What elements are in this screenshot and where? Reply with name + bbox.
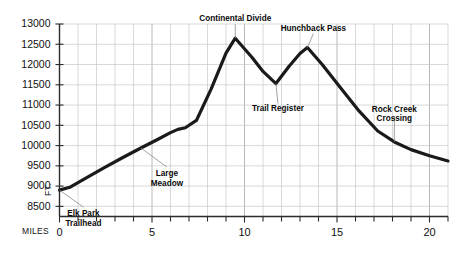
y-tick-label: 13000 (21, 17, 50, 29)
y-tick-label: 10000 (21, 139, 50, 151)
y-tick-label: 8500 (27, 200, 51, 212)
y-tick-label: 10500 (21, 119, 50, 131)
annotation-label: Continental Divide (199, 14, 271, 23)
annotation-label: Hunchback Pass (281, 24, 347, 33)
annotation-label: Trailhead (66, 219, 102, 228)
annotation-label: Large (156, 169, 179, 178)
annotation-label: Elk Park (67, 209, 100, 218)
y-tick-label: 12500 (21, 38, 50, 50)
y-axis-unit-label: FT. (43, 183, 53, 196)
y-tick-label: 11500 (22, 78, 51, 90)
x-tick-label: 15 (331, 226, 343, 238)
y-tick-label: 11000 (22, 98, 51, 110)
x-tick-label: 10 (238, 226, 250, 238)
y-tick-label: 9500 (27, 159, 51, 171)
x-axis-unit-label: MILES (22, 226, 49, 236)
chart-svg: 8500900095001000010500110001150012000125… (0, 0, 470, 255)
x-tick-label: 5 (149, 226, 155, 238)
annotation-label: Meadow (151, 179, 184, 188)
y-tick-label: 12000 (21, 58, 50, 70)
elevation-profile-chart: 8500900095001000010500110001150012000125… (0, 0, 470, 255)
x-tick-label: 0 (56, 226, 62, 238)
annotation-label: Trail Register (252, 104, 305, 113)
annotation-label: Crossing (377, 114, 413, 123)
annotation-label: Rock Creek (372, 105, 418, 114)
x-tick-label: 20 (423, 226, 435, 238)
